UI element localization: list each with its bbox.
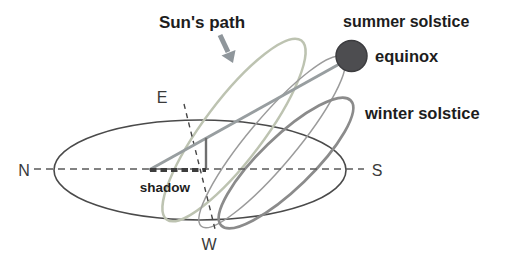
equinox-label: equinox <box>375 47 439 65</box>
summer-solstice-label: summer solstice <box>343 13 469 30</box>
sun-ray <box>149 62 343 170</box>
compass-north-label: N <box>18 162 30 179</box>
compass-east-label: E <box>157 89 168 106</box>
sun-path-arrow-icon <box>220 35 236 63</box>
sun-icon <box>336 41 367 72</box>
sun-path-label: Sun's path <box>159 13 245 32</box>
compass-west-label: W <box>201 236 217 253</box>
shadow-label: shadow <box>140 180 191 195</box>
compass-south-label: S <box>372 162 383 179</box>
winter-solstice-label: winter solstice <box>364 104 480 122</box>
sun-path-diagram: Sun's path summer solstice equinox winte… <box>0 0 506 267</box>
arrow-head <box>222 50 236 63</box>
diagram-canvas: Sun's path summer solstice equinox winte… <box>0 0 506 267</box>
arrow-shaft <box>220 35 228 52</box>
